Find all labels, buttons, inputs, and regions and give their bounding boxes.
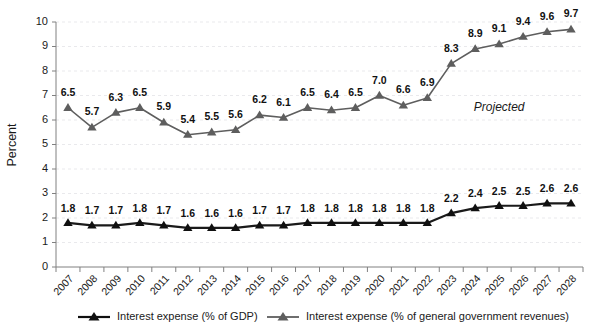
gdp-data-label: 1.8 [348, 202, 363, 214]
revenues-marker [566, 25, 575, 33]
revenues-data-label: 6.5 [348, 86, 363, 98]
x-tick-label: 2007 [51, 272, 76, 297]
series-revenues-markers [63, 25, 575, 138]
revenues-data-label: 9.4 [516, 15, 531, 27]
y-tick-label: 9 [42, 39, 48, 51]
revenues-marker [375, 91, 384, 99]
revenues-marker [303, 103, 312, 111]
y-tick-label: 4 [42, 162, 48, 174]
x-tick-label: 2009 [99, 272, 124, 297]
legend-item-gdp[interactable]: Interest expense (% of GDP) [78, 310, 258, 322]
revenues-marker [351, 103, 360, 111]
revenues-data-label: 5.7 [85, 105, 100, 117]
revenues-marker [255, 110, 264, 118]
gdp-data-label: 1.7 [252, 204, 267, 216]
line-chart: 012345678910 200720082009201020112012201… [0, 0, 598, 335]
gdp-data-label: 1.8 [133, 202, 148, 214]
gdp-data-label: 2.5 [492, 185, 507, 197]
x-tick-label: 2028 [554, 272, 579, 297]
chart-container: 012345678910 200720082009201020112012201… [0, 0, 598, 335]
legend-item-revenues[interactable]: Interest expense (% of general governmen… [267, 310, 569, 322]
gdp-data-label: 2.6 [564, 182, 579, 194]
revenues-data-label: 6.5 [133, 86, 148, 98]
revenues-marker [231, 125, 240, 133]
y-tick-label: 10 [36, 15, 48, 27]
y-tick-label: 2 [42, 211, 48, 223]
gdp-data-label: 1.6 [228, 207, 243, 219]
x-axis-tick-labels: 2007200820092010201120122013201420152016… [51, 272, 579, 297]
gdp-data-label: 1.6 [180, 207, 195, 219]
y-tick-label: 0 [42, 260, 48, 272]
revenues-data-label: 6.9 [420, 76, 435, 88]
chart-legend: Interest expense (% of GDP) Interest exp… [78, 310, 569, 322]
y-tick-label: 1 [42, 235, 48, 247]
x-tick-label: 2015 [242, 272, 267, 297]
revenues-data-label: 6.2 [252, 93, 267, 105]
revenues-data-label: 6.5 [300, 86, 315, 98]
x-tick-label: 2012 [171, 272, 196, 297]
x-tick-label: 2024 [458, 272, 483, 297]
revenues-data-label: 5.6 [228, 108, 243, 120]
revenues-marker [447, 59, 456, 67]
revenues-marker [159, 118, 168, 126]
revenues-data-label: 8.9 [468, 27, 483, 39]
revenues-data-label: 6.6 [396, 83, 411, 95]
revenues-data-label: 8.3 [444, 42, 459, 54]
gdp-data-label: 1.8 [420, 202, 435, 214]
revenues-data-label: 5.9 [156, 100, 171, 112]
x-tick-label: 2017 [290, 272, 315, 297]
revenues-data-label: 5.5 [204, 110, 219, 122]
revenues-data-label: 9.6 [540, 10, 555, 22]
x-tick-label: 2021 [386, 272, 411, 297]
gdp-data-label: 1.7 [85, 204, 100, 216]
x-tick-label: 2011 [147, 272, 171, 297]
series-gdp-data-labels: 1.81.71.71.81.71.61.61.61.71.71.81.81.81… [61, 182, 579, 219]
revenues-marker [135, 103, 144, 111]
x-tick-label: 2018 [314, 272, 339, 297]
gdp-data-label: 2.2 [444, 192, 459, 204]
x-tick-label: 2010 [123, 272, 148, 297]
revenues-data-label: 6.5 [61, 86, 76, 98]
revenues-marker [63, 103, 72, 111]
y-tick-label: 6 [42, 113, 48, 125]
gdp-data-label: 1.6 [204, 207, 219, 219]
y-tick-label: 8 [42, 64, 48, 76]
series-revenues-line [68, 29, 571, 134]
y-axis-title: Percent [5, 123, 19, 167]
gdp-data-label: 1.7 [156, 204, 171, 216]
x-tick-label: 2023 [434, 272, 459, 297]
revenues-data-label: 7.0 [372, 74, 387, 86]
gdp-data-label: 1.8 [324, 202, 339, 214]
y-axis-tick-labels: 012345678910 [36, 15, 48, 272]
revenues-data-label: 6.3 [109, 91, 124, 103]
x-tick-label: 2027 [530, 272, 555, 297]
gdp-data-label: 1.7 [109, 204, 124, 216]
x-tick-label: 2022 [410, 272, 435, 297]
series-gdp: 1.81.71.71.81.71.61.61.61.71.71.81.81.81… [61, 182, 579, 231]
legend-label-gdp: Interest expense (% of GDP) [117, 310, 258, 322]
revenues-data-label: 6.4 [324, 88, 339, 100]
legend-label-revenues: Interest expense (% of general governmen… [306, 310, 569, 322]
x-tick-label: 2016 [266, 272, 291, 297]
revenues-data-label: 6.1 [276, 96, 291, 108]
gdp-data-label: 1.7 [276, 204, 291, 216]
gdp-data-label: 2.5 [516, 185, 531, 197]
x-tick-label: 2008 [75, 272, 100, 297]
gdp-data-label: 1.8 [372, 202, 387, 214]
y-tick-label: 7 [42, 88, 48, 100]
y-axis-ticks [52, 22, 56, 267]
revenues-data-label: 9.1 [492, 22, 507, 34]
y-tick-label: 3 [42, 186, 48, 198]
x-tick-label: 2020 [362, 272, 387, 297]
gdp-data-label: 1.8 [396, 202, 411, 214]
x-tick-label: 2014 [218, 272, 243, 297]
x-tick-label: 2025 [482, 272, 507, 297]
gdp-data-label: 1.8 [300, 202, 315, 214]
projected-annotation: Projected [474, 100, 525, 114]
x-tick-label: 2026 [506, 272, 531, 297]
series-revenues: 6.55.76.36.55.95.45.55.66.26.16.56.46.57… [61, 7, 579, 138]
x-tick-label: 2013 [194, 272, 219, 297]
x-axis-ticks [56, 267, 583, 272]
gdp-data-label: 1.8 [61, 202, 76, 214]
revenues-data-label: 9.7 [564, 7, 579, 19]
